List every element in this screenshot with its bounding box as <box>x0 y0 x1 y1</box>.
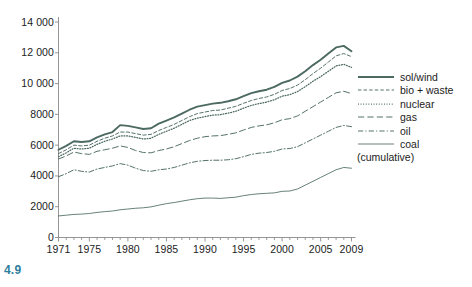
x-tick-label: 1980 <box>116 244 140 255</box>
x-tick-label: 2000 <box>270 244 294 255</box>
x-tick-label: 1990 <box>193 244 217 255</box>
legend-entry-nuclear: nuclear <box>357 97 472 111</box>
legend-swatch-icon <box>357 111 395 123</box>
x-tick-label: 1975 <box>77 244 101 255</box>
legend-entry-sol-wind: sol/wind <box>357 70 472 84</box>
legend-swatch-icon <box>357 138 395 150</box>
legend-swatch-icon <box>357 98 395 110</box>
legend-label: nuclear <box>395 98 434 110</box>
legend-swatch-icon <box>357 71 395 83</box>
legend-label: coal <box>395 138 419 150</box>
legend-entry-oil: oil <box>357 124 472 138</box>
legend-label: bio + waste <box>395 84 453 96</box>
legend-label: gas <box>395 111 417 123</box>
x-tick-label: 1971 <box>47 244 71 255</box>
legend-entry-gas: gas <box>357 111 472 125</box>
legend-note: (cumulative) <box>357 151 472 165</box>
x-tick-label: 2005 <box>309 244 333 255</box>
x-tick-label: 1985 <box>155 244 179 255</box>
figure-container: 0200040006000800010 00012 00014 000 1971… <box>0 0 472 287</box>
legend-entry-bio-waste: bio + waste <box>357 84 472 98</box>
legend-label: sol/wind <box>395 71 438 83</box>
legend-label: oil <box>395 125 411 137</box>
legend-entries: sol/windbio + wastenucleargasoilcoal <box>357 70 472 151</box>
chart-legend: sol/windbio + wastenucleargasoilcoal (cu… <box>357 70 472 165</box>
figure-number: 4.9 <box>4 263 21 277</box>
x-tick-label: 2009 <box>340 244 364 255</box>
legend-swatch-icon <box>357 84 395 96</box>
legend-swatch-icon <box>357 125 395 137</box>
legend-entry-coal: coal <box>357 138 472 152</box>
x-tick-label: 1995 <box>232 244 256 255</box>
